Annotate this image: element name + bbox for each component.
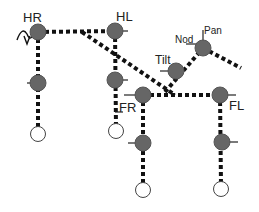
label-hl: HL: [116, 9, 133, 24]
feet: [31, 124, 229, 198]
joints: [30, 23, 230, 151]
joint-hl-hip: [107, 23, 123, 39]
joint-hl-knee: [107, 72, 123, 88]
label-nod: Nod: [175, 34, 193, 45]
label-fl: FL: [229, 98, 244, 113]
label-fr: FR: [119, 100, 136, 115]
robot-kinematic-diagram: HR HL FR FL Tilt Nod Pan: [0, 0, 259, 212]
label-hr: HR: [23, 10, 42, 25]
joint-fr-shoulder: [135, 87, 151, 103]
label-pan: Pan: [204, 25, 222, 36]
joint-fl-shoulder: [212, 87, 228, 103]
link-hip-bar: [38, 31, 115, 32]
label-tilt: Tilt: [155, 53, 171, 67]
joint-fl-elbow: [214, 134, 230, 150]
joint-hr-knee: [30, 75, 46, 91]
joint-pan: [195, 40, 211, 56]
links: [38, 31, 241, 186]
foot-fr: [136, 183, 151, 198]
foot-fl: [214, 182, 229, 197]
foot-hr: [31, 127, 46, 142]
joint-hr-hip: [30, 24, 46, 40]
joint-fr-elbow: [135, 135, 151, 151]
foot-hl: [109, 124, 124, 139]
